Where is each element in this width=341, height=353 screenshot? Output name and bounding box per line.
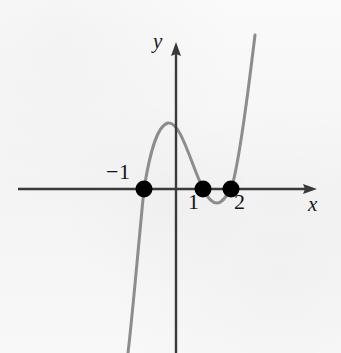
- y-axis-arrowhead: [171, 42, 181, 56]
- x-axis-label: x: [308, 194, 317, 215]
- coordinate-plot: [0, 0, 341, 353]
- tick-label-minus-one: −1: [106, 161, 130, 183]
- graph-figure: y x −1 1 2: [0, 0, 341, 353]
- tick-label-one: 1: [188, 191, 199, 213]
- root-point-minus-one: [136, 181, 153, 198]
- y-axis-label: y: [153, 31, 162, 52]
- tick-label-two: 2: [234, 191, 245, 213]
